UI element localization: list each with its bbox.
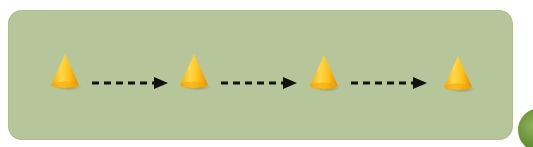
cone-icon <box>441 54 475 94</box>
dashed-arrow-icon <box>92 77 168 89</box>
cone-icon <box>177 52 211 92</box>
dashed-arrow-icon <box>351 77 427 89</box>
cone-icon <box>307 53 341 93</box>
diagram-stage <box>0 0 533 147</box>
green-circle-decoration <box>518 108 533 147</box>
dashed-arrow-icon <box>221 77 297 89</box>
cone-icon <box>48 52 82 92</box>
diagram-panel <box>8 10 513 140</box>
